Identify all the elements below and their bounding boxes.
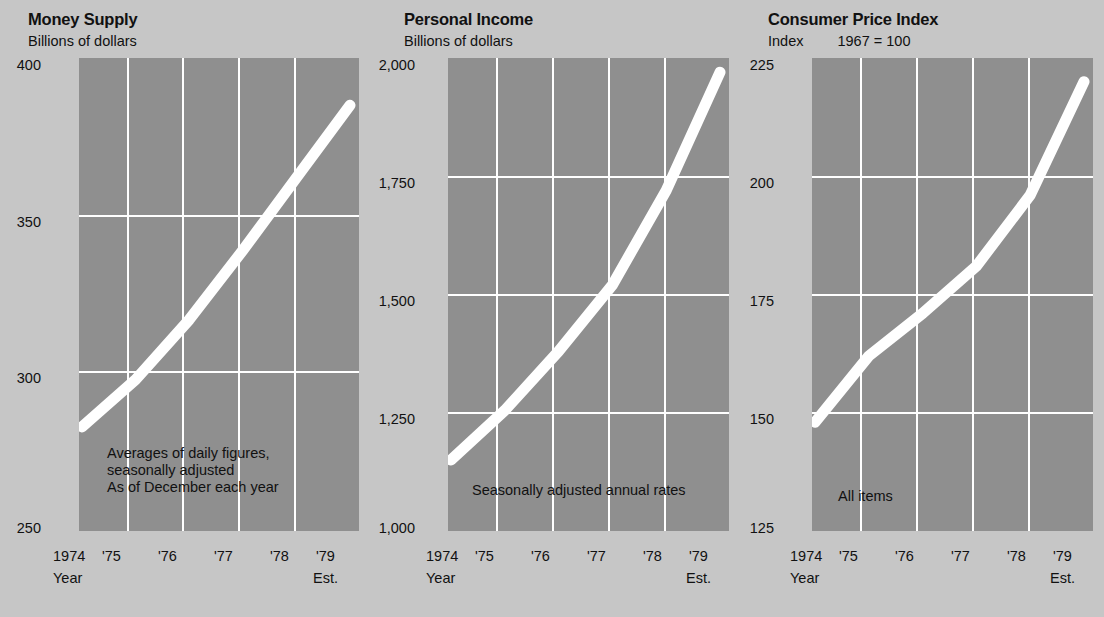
y-tick-label: 400 (17, 58, 41, 73)
y-tick-label: 300 (17, 371, 41, 386)
chart-title: Money Supply (28, 0, 380, 30)
y-tick-label: 1,000 (379, 521, 415, 536)
x-axis: 1974 '75 '76 '77 '78 '79 Year Est. (51, 549, 331, 595)
chart-base-note: 1967 = 100 (837, 30, 910, 52)
chart-unit-row: Index 1967 = 100 (768, 30, 1104, 52)
y-tick-label: 1,250 (379, 412, 415, 427)
x-axis-caption: Year (790, 571, 819, 586)
y-tick-label: 150 (750, 412, 774, 427)
x-tick-label: '75 (475, 549, 494, 564)
chart-annotation: Averages of daily figures, seasonally ad… (107, 445, 279, 496)
y-tick-label: 200 (750, 176, 774, 191)
chart-panel-money-supply: Money Supply Billions of dollars 400 350… (0, 0, 380, 617)
x-axis-est-label: Est. (1050, 571, 1075, 586)
y-tick-label: 350 (17, 215, 41, 230)
chart-unit-row: Billions of dollars (28, 30, 380, 52)
chart-title: Personal Income (404, 0, 744, 30)
y-tick-label: 2,000 (379, 58, 415, 73)
x-axis-est-label: Est. (686, 571, 711, 586)
x-tick-label: '76 (895, 549, 914, 564)
x-tick-label: 1974 (426, 549, 458, 564)
x-tick-label: '77 (587, 549, 606, 564)
x-axis-caption: Year (426, 571, 455, 586)
plot-area: Seasonally adjusted annual rates (448, 58, 729, 531)
y-tick-label: 250 (17, 521, 41, 536)
x-tick-label: '79 (689, 549, 708, 564)
x-tick-label: '78 (270, 549, 289, 564)
plot-wrap: 225 200 175 150 125 All items (768, 58, 1104, 533)
x-axis: 1974 '75 '76 '77 '78 '79 Year Est. (788, 549, 1069, 595)
chart-panel-personal-income: Personal Income Billions of dollars 2,00… (380, 0, 744, 617)
chart-title: Consumer Price Index (768, 0, 1104, 30)
y-tick-label: 175 (750, 294, 774, 309)
x-tick-label: '78 (1007, 549, 1026, 564)
plot-wrap: 400 350 300 250 Averages of daily figure… (28, 58, 380, 533)
series-line-personal-income (448, 58, 729, 531)
x-tick-label: '78 (643, 549, 662, 564)
x-tick-label: '79 (1053, 549, 1072, 564)
chart-annotation: Seasonally adjusted annual rates (472, 482, 686, 499)
series-line-consumer-price-index (812, 58, 1093, 531)
chart-unit-label: Billions of dollars (28, 30, 137, 52)
plot-wrap: 2,000 1,750 1,500 1,250 1,000 Seasonally… (404, 58, 744, 533)
plot-area: Averages of daily figures, seasonally ad… (79, 58, 359, 531)
x-tick-label: '75 (839, 549, 858, 564)
x-tick-label: '76 (158, 549, 177, 564)
x-axis-caption: Year (53, 571, 82, 586)
x-tick-label: '77 (214, 549, 233, 564)
x-tick-label: 1974 (790, 549, 822, 564)
chart-annotation: All items (838, 488, 893, 505)
chart-panel-consumer-price-index: Consumer Price Index Index 1967 = 100 22… (744, 0, 1104, 617)
y-tick-label: 1,750 (379, 176, 415, 191)
x-tick-label: '77 (951, 549, 970, 564)
y-tick-label: 225 (750, 58, 774, 73)
x-axis: 1974 '75 '76 '77 '78 '79 Year Est. (424, 549, 705, 595)
y-tick-label: 125 (750, 521, 774, 536)
chart-unit-row: Billions of dollars (404, 30, 744, 52)
x-tick-label: '79 (316, 549, 335, 564)
chart-unit-label: Billions of dollars (404, 30, 513, 52)
x-tick-label: '76 (531, 549, 550, 564)
chart-unit-label: Index (768, 30, 803, 52)
y-tick-label: 1,500 (379, 294, 415, 309)
x-tick-label: 1974 (53, 549, 85, 564)
plot-area: All items (812, 58, 1093, 531)
chart-panel-group: Money Supply Billions of dollars 400 350… (0, 0, 1104, 617)
x-tick-label: '75 (102, 549, 121, 564)
x-axis-est-label: Est. (313, 571, 338, 586)
